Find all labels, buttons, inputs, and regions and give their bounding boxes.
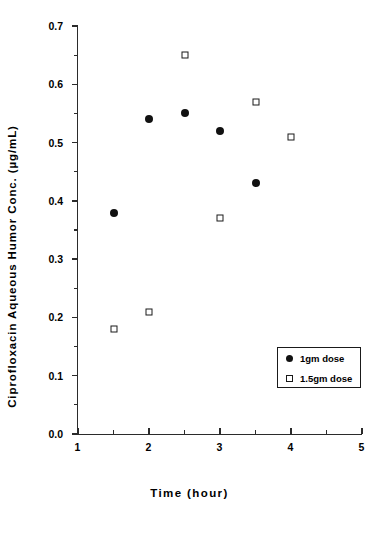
data-point-filled-circle bbox=[145, 115, 153, 123]
y-tick-minor bbox=[74, 288, 78, 289]
y-tick-major: 0.7 bbox=[72, 25, 78, 26]
y-tick-major: 0.2 bbox=[72, 317, 78, 318]
y-tick-label: 0.7 bbox=[48, 20, 63, 32]
y-tick-label: 0.4 bbox=[48, 195, 63, 207]
legend-entry-1gm-dose: 1gm dose bbox=[278, 348, 360, 368]
x-tick-major: 5 bbox=[361, 428, 362, 434]
y-tick-minor bbox=[74, 171, 78, 172]
y-tick-label: 0.2 bbox=[48, 311, 63, 323]
data-point-filled-circle bbox=[181, 109, 189, 117]
x-tick-minor bbox=[255, 430, 256, 434]
x-tick-major: 3 bbox=[219, 428, 220, 434]
x-tick-minor bbox=[326, 430, 327, 434]
y-axis-title: Ciprofloxacin Aqueous Humor Conc. (µg/mL… bbox=[0, 0, 26, 533]
y-tick-major: 0.3 bbox=[72, 258, 78, 259]
data-point-filled-circle bbox=[216, 127, 224, 135]
x-tick-label: 1 bbox=[74, 441, 80, 453]
x-tick-major: 4 bbox=[290, 428, 291, 434]
y-tick-label: 0.5 bbox=[48, 137, 63, 149]
data-point-open-square bbox=[181, 52, 188, 59]
legend-entry-1-5gm-dose: 1.5gm dose bbox=[278, 368, 360, 388]
legend-label-1-5gm-dose: 1.5gm dose bbox=[300, 373, 352, 384]
y-tick-label: 0.6 bbox=[48, 78, 63, 90]
data-point-open-square bbox=[146, 308, 153, 315]
y-tick-label: 0.0 bbox=[48, 428, 63, 440]
x-tick-label: 4 bbox=[287, 441, 293, 453]
y-tick-major: 0.5 bbox=[72, 142, 78, 143]
data-point-open-square bbox=[252, 98, 259, 105]
x-axis-title-text: Time (hour) bbox=[150, 487, 228, 499]
y-tick-minor bbox=[74, 346, 78, 347]
x-tick-minor bbox=[113, 430, 114, 434]
data-point-filled-circle bbox=[252, 179, 260, 187]
legend-label-1gm-dose: 1gm dose bbox=[300, 353, 344, 364]
y-tick-minor bbox=[74, 113, 78, 114]
y-tick-major: 0.1 bbox=[72, 375, 78, 376]
x-axis-title: Time (hour) bbox=[0, 487, 379, 499]
y-axis-title-text: Ciprofloxacin Aqueous Humor Conc. (µg/mL… bbox=[6, 125, 20, 408]
data-point-filled-circle bbox=[110, 209, 118, 217]
y-tick-minor bbox=[74, 229, 78, 230]
data-point-open-square bbox=[110, 326, 117, 333]
x-tick-minor bbox=[184, 430, 185, 434]
legend-open-square-icon bbox=[278, 375, 300, 382]
y-tick-minor bbox=[74, 404, 78, 405]
x-tick-major: 1 bbox=[77, 428, 78, 434]
legend-filled-circle-icon bbox=[278, 355, 300, 362]
y-tick-label: 0.1 bbox=[48, 370, 63, 382]
chart-legend: 1gm dose 1.5gm dose bbox=[277, 347, 361, 388]
x-tick-label: 5 bbox=[358, 441, 364, 453]
y-tick-major: 0.6 bbox=[72, 84, 78, 85]
x-tick-major: 2 bbox=[148, 428, 149, 434]
y-tick-major: 0.4 bbox=[72, 200, 78, 201]
y-tick-minor bbox=[74, 55, 78, 56]
data-point-open-square bbox=[217, 215, 224, 222]
scatter-chart-figure: Ciprofloxacin Aqueous Humor Conc. (µg/mL… bbox=[0, 0, 379, 533]
y-tick-label: 0.3 bbox=[48, 253, 63, 265]
data-point-open-square bbox=[288, 133, 295, 140]
x-tick-label: 3 bbox=[216, 441, 222, 453]
x-axis-line bbox=[77, 434, 362, 435]
x-tick-label: 2 bbox=[145, 441, 151, 453]
